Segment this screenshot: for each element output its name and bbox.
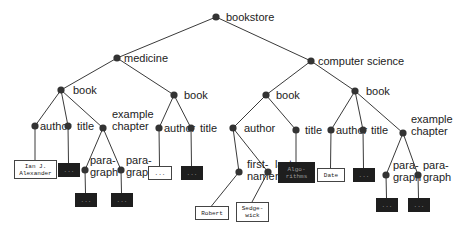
leaf-box-author1: Ian J.Alexander <box>15 161 57 179</box>
node-label-para4: para- <box>423 159 449 171</box>
leaf-box-para1: ... <box>76 194 97 207</box>
leaf-boxes: Ian J.Alexander...............RobertSedg… <box>15 161 430 222</box>
leaf-box-author2: ... <box>149 167 172 180</box>
leaf-box-first: Robert <box>196 207 229 220</box>
leaf-text: wick <box>245 212 260 219</box>
node-dot-title4 <box>359 126 366 133</box>
node-label-chap2: example <box>411 113 453 125</box>
node-dot-book1 <box>57 86 64 93</box>
node-dot-cs <box>307 57 314 64</box>
leaf-box-title4: ... <box>354 169 375 182</box>
node-dot-bookstore <box>212 13 219 20</box>
node-label-title4: title <box>371 124 388 136</box>
leaf-text: ... <box>359 172 370 179</box>
node-label-chap2: chapter <box>411 125 448 137</box>
leaf-text: Ian J. <box>25 163 47 170</box>
leaf-text: ... <box>117 197 128 204</box>
leaf-edge <box>159 128 160 166</box>
leaf-edge <box>331 130 332 168</box>
node-label-book3: book <box>276 89 300 101</box>
leaf-text: ... <box>382 202 393 209</box>
node-dot-chap2 <box>399 129 406 136</box>
leaf-text: Sedge- <box>242 205 264 212</box>
node-dot-book4 <box>351 87 358 94</box>
leaf-text: ... <box>414 202 425 209</box>
leaf-box-para4: ... <box>409 199 430 212</box>
leaf-text: ... <box>155 170 166 177</box>
leaf-box-para2: ... <box>112 194 133 207</box>
node-dot-medicine <box>113 54 120 61</box>
node-label-book1: book <box>73 84 97 96</box>
node-label-medicine: medicine <box>124 52 168 64</box>
leaf-text: ... <box>81 197 92 204</box>
leaf-text: rithms <box>286 173 308 180</box>
leaf-box-para3: ... <box>377 199 398 212</box>
leaf-text: Date <box>324 172 339 179</box>
node-dot-author4 <box>327 126 334 133</box>
node-label-title2: title <box>200 122 217 134</box>
node-label-para1: para- <box>90 154 116 166</box>
node-dot-author3 <box>229 124 236 131</box>
node-label-para3: para- <box>393 159 419 171</box>
node-label-para4: graph <box>423 171 451 183</box>
leaf-text: Robert <box>201 210 223 217</box>
leaf-box-title1: ... <box>59 164 80 177</box>
node-dot-title1 <box>64 122 71 129</box>
node-label-chap1: chapter <box>112 120 149 132</box>
node-dot-title3 <box>292 126 299 133</box>
edge-bookstore-cs <box>216 17 311 61</box>
node-label-para2: para- <box>126 154 152 166</box>
leaf-text: Algo- <box>287 166 305 173</box>
node-label-first: first- <box>247 158 269 170</box>
node-dot-book3 <box>262 91 269 98</box>
node-label-para1: graph <box>90 166 118 178</box>
leaf-box-author4: Date <box>318 169 345 182</box>
node-dot-para1 <box>81 166 88 173</box>
node-dot-last <box>264 168 271 175</box>
node-dot-chap1 <box>99 124 106 131</box>
node-label-title3: title <box>305 124 322 136</box>
leaf-box-title2: ... <box>182 167 203 180</box>
node-dot-para2 <box>117 166 124 173</box>
node-dot-para3 <box>382 171 389 178</box>
node-dot-para4 <box>414 171 421 178</box>
tree-nodes: bookstoremedicinecomputer sciencebookboo… <box>31 11 452 183</box>
node-dot-book2 <box>170 91 177 98</box>
node-label-title1: title <box>77 120 94 132</box>
node-dot-author2 <box>155 124 162 131</box>
node-label-chap1: example <box>112 108 154 120</box>
leaf-text: ... <box>187 170 198 177</box>
leaf-text: Alexander <box>19 170 52 177</box>
leaf-box-title3: Algo-rithms <box>279 163 315 183</box>
leaf-text: ... <box>64 167 75 174</box>
node-label-cs: computer science <box>318 55 404 67</box>
tree-edges <box>35 17 418 175</box>
node-dot-author1 <box>31 122 38 129</box>
node-dot-title2 <box>187 124 194 131</box>
node-label-bookstore: bookstore <box>226 11 274 23</box>
node-label-book2: book <box>184 89 208 101</box>
node-label-book4: book <box>366 85 390 97</box>
node-dot-first <box>235 168 242 175</box>
node-label-author3: author <box>244 122 276 134</box>
leaf-edge <box>212 172 240 206</box>
xml-tree-diagram: bookstoremedicinecomputer sciencebookboo… <box>0 0 457 234</box>
leaf-box-last: Sedge-wick <box>237 203 269 222</box>
